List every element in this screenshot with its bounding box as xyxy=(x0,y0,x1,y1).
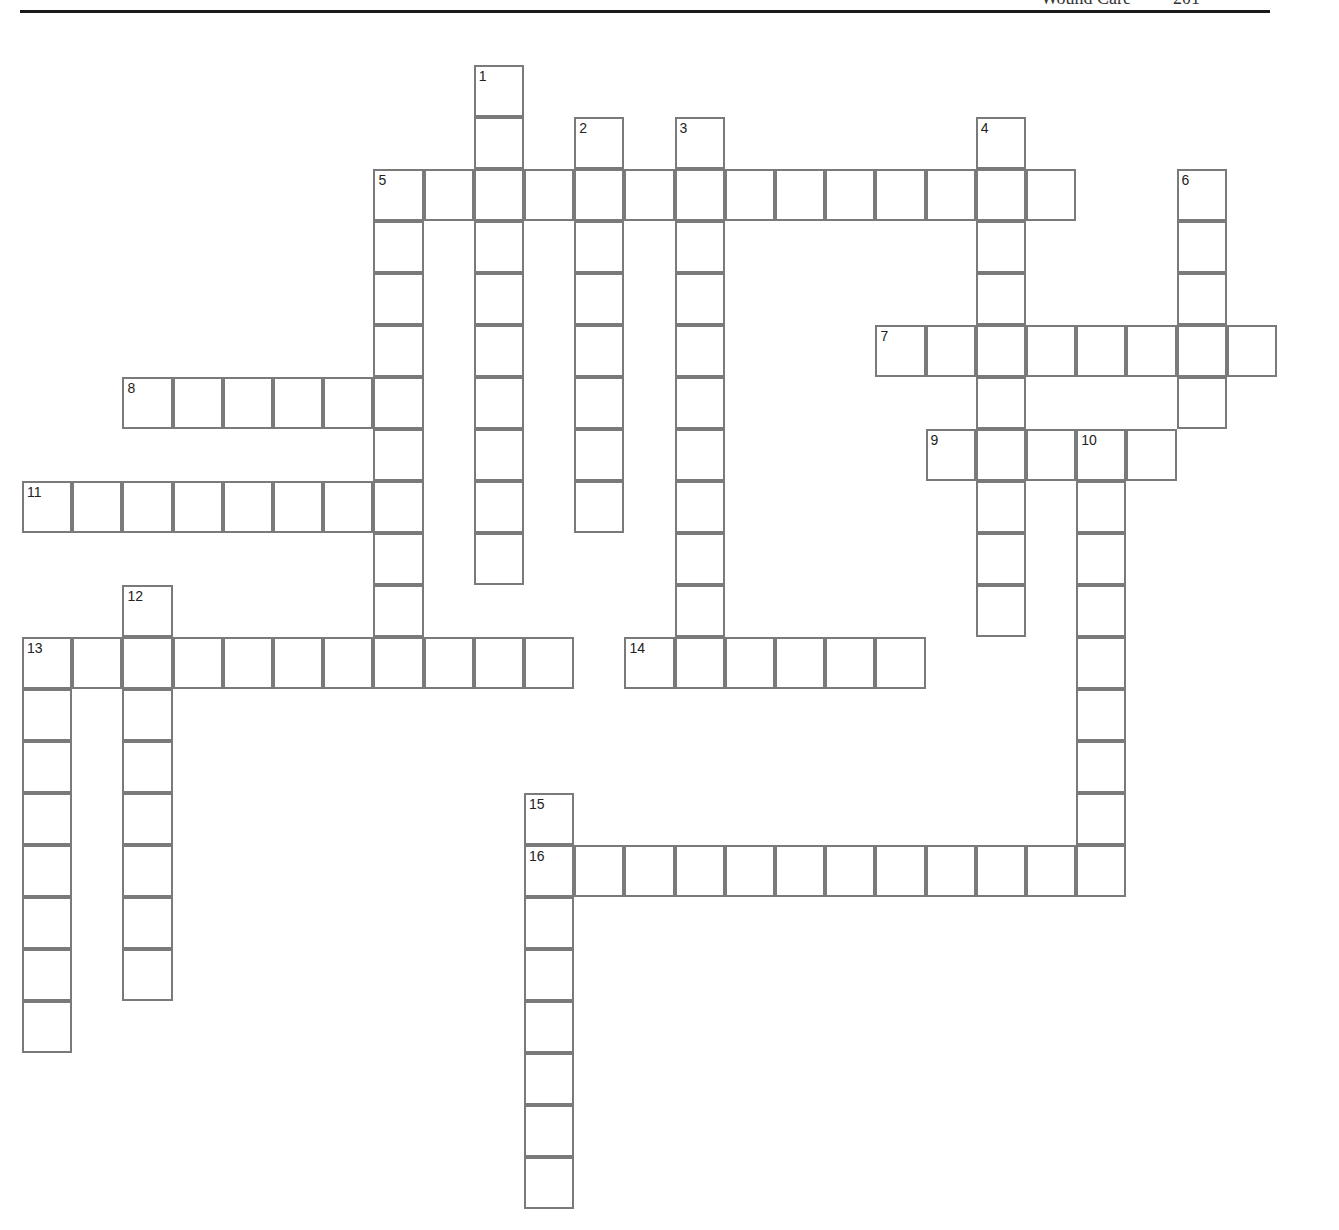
crossword-cell[interactable] xyxy=(976,325,1026,377)
crossword-cell[interactable] xyxy=(474,429,524,481)
crossword-cell[interactable] xyxy=(926,325,976,377)
crossword-cell[interactable] xyxy=(675,845,725,897)
crossword-cell[interactable] xyxy=(323,637,373,689)
crossword-cell[interactable] xyxy=(474,533,524,585)
crossword-cell[interactable] xyxy=(22,689,72,741)
crossword-cell[interactable] xyxy=(574,325,624,377)
crossword-cell[interactable] xyxy=(675,481,725,533)
crossword-cell[interactable] xyxy=(675,533,725,585)
crossword-cell[interactable] xyxy=(524,637,574,689)
crossword-cell[interactable] xyxy=(624,845,674,897)
crossword-cell[interactable] xyxy=(1126,429,1176,481)
crossword-cell[interactable] xyxy=(675,221,725,273)
crossword-cell[interactable] xyxy=(122,897,172,949)
crossword-cell[interactable] xyxy=(926,845,976,897)
crossword-cell[interactable] xyxy=(122,845,172,897)
crossword-cell[interactable] xyxy=(675,429,725,481)
crossword-cell[interactable] xyxy=(775,845,825,897)
crossword-cell[interactable]: 14 xyxy=(624,637,674,689)
crossword-cell[interactable] xyxy=(474,169,524,221)
crossword-cell[interactable] xyxy=(474,221,524,273)
crossword-cell[interactable] xyxy=(122,741,172,793)
crossword-cell[interactable] xyxy=(675,325,725,377)
crossword-cell[interactable] xyxy=(725,637,775,689)
crossword-cell[interactable] xyxy=(574,169,624,221)
crossword-cell[interactable] xyxy=(976,481,1026,533)
crossword-cell[interactable] xyxy=(474,273,524,325)
crossword-cell[interactable] xyxy=(675,377,725,429)
crossword-cell[interactable] xyxy=(122,637,172,689)
crossword-cell[interactable] xyxy=(725,845,775,897)
crossword-cell[interactable] xyxy=(976,585,1026,637)
crossword-cell[interactable]: 5 xyxy=(373,169,423,221)
crossword-cell[interactable] xyxy=(926,169,976,221)
crossword-cell[interactable] xyxy=(373,221,423,273)
crossword-cell[interactable] xyxy=(173,377,223,429)
crossword-cell[interactable] xyxy=(122,689,172,741)
crossword-cell[interactable] xyxy=(1177,325,1227,377)
crossword-cell[interactable] xyxy=(373,377,423,429)
crossword-cell[interactable]: 9 xyxy=(926,429,976,481)
crossword-cell[interactable] xyxy=(122,949,172,1001)
crossword-cell[interactable] xyxy=(122,793,172,845)
crossword-cell[interactable] xyxy=(574,221,624,273)
crossword-cell[interactable] xyxy=(976,429,1026,481)
crossword-cell[interactable] xyxy=(976,273,1026,325)
crossword-cell[interactable] xyxy=(524,169,574,221)
crossword-cell[interactable]: 6 xyxy=(1177,169,1227,221)
crossword-cell[interactable] xyxy=(1076,637,1126,689)
crossword-cell[interactable] xyxy=(22,741,72,793)
crossword-cell[interactable] xyxy=(1177,273,1227,325)
crossword-cell[interactable] xyxy=(22,793,72,845)
crossword-cell[interactable]: 3 xyxy=(675,117,725,169)
crossword-cell[interactable] xyxy=(323,377,373,429)
crossword-cell[interactable] xyxy=(1076,845,1126,897)
crossword-cell[interactable] xyxy=(1076,481,1126,533)
crossword-cell[interactable] xyxy=(675,637,725,689)
crossword-cell[interactable] xyxy=(875,845,925,897)
crossword-cell[interactable] xyxy=(223,377,273,429)
crossword-cell[interactable]: 13 xyxy=(22,637,72,689)
crossword-cell[interactable] xyxy=(1126,325,1176,377)
crossword-cell[interactable] xyxy=(1076,585,1126,637)
crossword-cell[interactable] xyxy=(1076,793,1126,845)
crossword-cell[interactable] xyxy=(1227,325,1277,377)
crossword-cell[interactable] xyxy=(474,325,524,377)
crossword-cell[interactable] xyxy=(875,637,925,689)
crossword-cell[interactable] xyxy=(173,481,223,533)
crossword-cell[interactable] xyxy=(72,637,122,689)
crossword-cell[interactable]: 4 xyxy=(976,117,1026,169)
crossword-cell[interactable] xyxy=(775,169,825,221)
crossword-cell[interactable] xyxy=(1177,377,1227,429)
crossword-cell[interactable]: 12 xyxy=(122,585,172,637)
crossword-cell[interactable] xyxy=(524,1105,574,1157)
crossword-cell[interactable] xyxy=(373,481,423,533)
crossword-cell[interactable] xyxy=(22,897,72,949)
crossword-cell[interactable] xyxy=(373,585,423,637)
crossword-cell[interactable] xyxy=(976,845,1026,897)
crossword-cell[interactable] xyxy=(1026,325,1076,377)
crossword-cell[interactable] xyxy=(373,273,423,325)
crossword-cell[interactable] xyxy=(22,1001,72,1053)
crossword-cell[interactable] xyxy=(273,481,323,533)
crossword-cell[interactable] xyxy=(424,637,474,689)
crossword-cell[interactable] xyxy=(474,117,524,169)
crossword-cell[interactable] xyxy=(825,169,875,221)
crossword-cell[interactable]: 1 xyxy=(474,65,524,117)
crossword-cell[interactable] xyxy=(675,273,725,325)
crossword-cell[interactable] xyxy=(976,221,1026,273)
crossword-cell[interactable] xyxy=(524,1001,574,1053)
crossword-cell[interactable] xyxy=(122,481,172,533)
crossword-cell[interactable]: 10 xyxy=(1076,429,1126,481)
crossword-cell[interactable] xyxy=(1076,325,1126,377)
crossword-cell[interactable] xyxy=(675,585,725,637)
crossword-cell[interactable]: 11 xyxy=(22,481,72,533)
crossword-cell[interactable] xyxy=(1177,221,1227,273)
crossword-cell[interactable] xyxy=(976,377,1026,429)
crossword-cell[interactable] xyxy=(1076,533,1126,585)
crossword-cell[interactable] xyxy=(976,533,1026,585)
crossword-cell[interactable] xyxy=(424,169,474,221)
crossword-cell[interactable] xyxy=(524,1053,574,1105)
crossword-cell[interactable] xyxy=(373,533,423,585)
crossword-cell[interactable] xyxy=(22,949,72,1001)
